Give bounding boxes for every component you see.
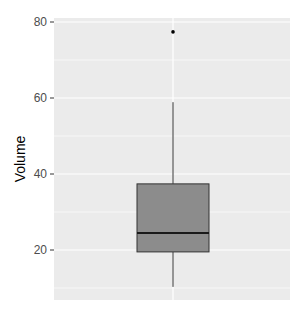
boxplot-chart: 20406080 Volume (0, 0, 305, 318)
iqr-box (137, 184, 209, 252)
y-tick-label: 20 (34, 243, 48, 257)
y-tick-label: 80 (34, 15, 48, 29)
y-axis-ticks: 20406080 (34, 15, 54, 257)
outlier-point (171, 30, 175, 34)
y-axis-title: Volume (12, 135, 28, 182)
y-tick-label: 60 (34, 91, 48, 105)
y-tick-label: 40 (34, 167, 48, 181)
